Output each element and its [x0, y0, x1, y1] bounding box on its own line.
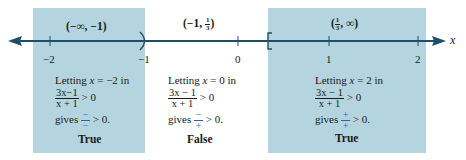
test-point-line: Letting x = 0 in	[168, 74, 236, 87]
right-arrow-icon	[432, 36, 446, 46]
expression-line: 3x − 1x + 1 > 0	[168, 88, 236, 109]
test-point-line: Letting x = −2 in	[55, 74, 129, 87]
sign-fraction: −−	[81, 110, 90, 131]
verdict-right: True	[335, 132, 358, 144]
sign-result-line: gives −+ > 0.	[168, 110, 236, 131]
axis-variable-label: x	[450, 33, 455, 48]
interval-label-middle: (−1, 13)	[183, 17, 214, 32]
interval-label-right: (13, ∞)	[331, 17, 358, 32]
expression-line: 3x−1x + 1 > 0	[55, 88, 129, 109]
left-arrow-icon	[8, 36, 22, 46]
test-block-left: Letting x = −2 in 3x−1x + 1 > 0 gives −−…	[55, 74, 129, 131]
expression-line: 3x − 1x + 1 > 0	[315, 88, 383, 109]
tick-label-neg1: −1	[138, 53, 150, 65]
tick-label-0: 0	[235, 53, 241, 65]
tick-label-2: 2	[415, 53, 421, 65]
tick-label-neg2: −2	[43, 53, 55, 65]
interval-label-left: (−∞, −1)	[66, 20, 106, 32]
verdict-middle: False	[187, 133, 213, 145]
sign-result-line: gives ++ > 0.	[315, 110, 383, 131]
sign-result-line: gives −− > 0.	[55, 110, 129, 131]
tick-label-1: 1	[326, 53, 332, 65]
test-block-middle: Letting x = 0 in 3x − 1x + 1 > 0 gives −…	[168, 74, 236, 131]
test-point-line: Letting x = 2 in	[315, 74, 383, 87]
test-block-right: Letting x = 2 in 3x − 1x + 1 > 0 gives +…	[315, 74, 383, 131]
verdict-left: True	[78, 133, 101, 145]
sign-fraction: −+	[194, 110, 203, 131]
sign-fraction: ++	[341, 110, 350, 131]
